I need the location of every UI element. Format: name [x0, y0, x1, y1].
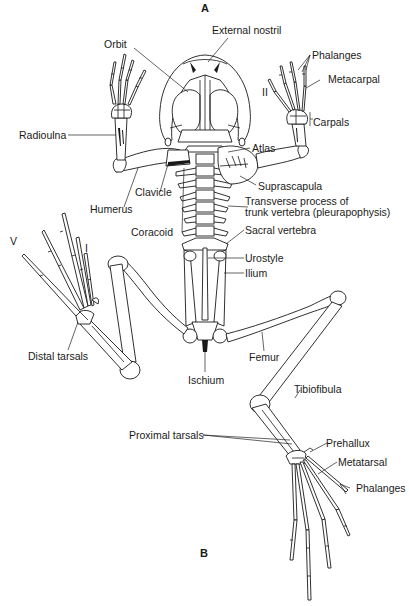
- label-urostyle: Urostyle: [245, 252, 284, 264]
- label-proximal-tarsals: Proximal tarsals: [129, 429, 204, 441]
- label-atlas: Atlas: [252, 142, 275, 154]
- label-distal-tarsals: Distal tarsals: [28, 350, 88, 362]
- label-external-nostril: External nostril: [212, 24, 281, 36]
- label-phalanges-hind: Phalanges: [356, 482, 406, 494]
- frog-skeleton-diagram: A B External nostril Orbit Phalanges Met…: [0, 0, 409, 606]
- label-carpals: Carpals: [313, 116, 349, 128]
- label-suprascapula: Suprascapula: [258, 180, 322, 192]
- label-radioulna: Radioulna: [19, 129, 66, 141]
- label-coracoid: Coracoid: [131, 226, 173, 238]
- label-tibiofibula: Tibiofibula: [294, 383, 341, 395]
- skeleton-illustration: [0, 0, 409, 606]
- pelvic-girdle: [183, 248, 227, 352]
- label-ischium: Ischium: [188, 374, 224, 386]
- label-orbit: Orbit: [104, 38, 127, 50]
- label-transverse-process-2: trunk vertebra (pleurapophysis): [245, 206, 390, 218]
- label-metacarpal: Metacarpal: [328, 73, 380, 85]
- label-metatarsal: Metatarsal: [338, 456, 387, 468]
- numeral-ii: II: [262, 86, 268, 98]
- label-clavicle: Clavicle: [135, 186, 172, 198]
- label-phalanges-fore: Phalanges: [312, 49, 362, 61]
- numeral-v: V: [10, 235, 17, 247]
- numeral-i: I: [85, 242, 88, 254]
- panel-label-a: A: [201, 2, 209, 14]
- skull: [160, 55, 251, 146]
- panel-label-b: B: [200, 547, 208, 559]
- label-prehallux: Prehallux: [326, 437, 370, 449]
- label-humerus: Humerus: [90, 203, 133, 215]
- label-femur: Femur: [249, 351, 279, 363]
- label-sacral-vertebra: Sacral vertebra: [245, 224, 316, 236]
- label-ilium: Ilium: [245, 267, 267, 279]
